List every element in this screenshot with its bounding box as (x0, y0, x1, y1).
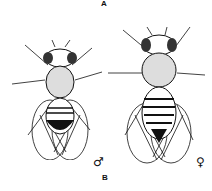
panel-label-b: B (102, 174, 108, 182)
female-fly-illustration (105, 15, 212, 165)
panel-label-a: A (101, 0, 107, 8)
female-symbol: ♀ (196, 156, 205, 168)
male-fly-illustration (10, 20, 110, 160)
male-symbol: ♂ (93, 156, 104, 168)
